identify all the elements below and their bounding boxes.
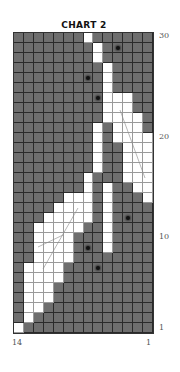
dark-stitch-cell	[74, 263, 84, 273]
light-stitch-cell	[133, 163, 143, 173]
bead-dot-icon	[86, 246, 90, 250]
dark-stitch-cell	[34, 143, 44, 153]
dark-stitch-cell	[34, 193, 44, 203]
dark-stitch-cell	[44, 203, 54, 213]
light-stitch-cell	[103, 83, 113, 93]
dark-stitch-cell	[143, 123, 153, 133]
light-stitch-cell	[103, 73, 113, 83]
dark-stitch-cell	[64, 323, 74, 333]
light-stitch-cell	[123, 123, 133, 133]
light-stitch-cell	[103, 183, 113, 193]
dark-stitch-cell	[64, 283, 74, 293]
dark-stitch-cell	[14, 213, 24, 223]
light-stitch-cell	[143, 193, 153, 203]
dark-stitch-cell	[84, 53, 94, 63]
dark-stitch-cell	[54, 113, 64, 123]
light-stitch-cell	[143, 173, 153, 183]
dark-stitch-cell	[54, 43, 64, 53]
dark-stitch-cell	[103, 133, 113, 143]
dark-stitch-cell	[84, 113, 94, 123]
dark-stitch-cell	[24, 173, 34, 183]
dark-stitch-cell	[93, 173, 103, 183]
dark-stitch-cell	[24, 223, 34, 233]
light-stitch-cell	[93, 123, 103, 133]
light-stitch-cell	[123, 103, 133, 113]
dark-stitch-cell	[14, 253, 24, 263]
light-stitch-cell	[64, 203, 74, 213]
dark-stitch-cell	[64, 103, 74, 113]
light-stitch-cell	[113, 113, 123, 123]
light-stitch-cell	[24, 293, 34, 303]
light-stitch-cell	[74, 223, 84, 233]
dark-stitch-cell	[84, 133, 94, 143]
dark-stitch-cell	[44, 173, 54, 183]
dark-stitch-cell	[84, 93, 94, 103]
dark-stitch-cell	[103, 293, 113, 303]
dark-stitch-cell	[123, 73, 133, 83]
dark-stitch-cell	[54, 313, 64, 323]
light-stitch-cell	[74, 203, 84, 213]
light-stitch-cell	[44, 273, 54, 283]
dark-stitch-cell	[113, 253, 123, 263]
dark-stitch-cell	[44, 103, 54, 113]
light-stitch-cell	[143, 153, 153, 163]
dark-stitch-cell	[133, 203, 143, 213]
dark-stitch-cell	[64, 173, 74, 183]
dark-stitch-cell	[74, 73, 84, 83]
dark-stitch-cell	[24, 233, 34, 243]
dark-stitch-cell	[84, 43, 94, 53]
dark-stitch-cell	[24, 243, 34, 253]
light-stitch-cell	[84, 33, 94, 43]
dark-stitch-cell	[24, 123, 34, 133]
dark-stitch-cell	[44, 43, 54, 53]
dark-stitch-cell	[64, 83, 74, 93]
dark-stitch-cell	[133, 243, 143, 253]
dark-stitch-cell	[93, 303, 103, 313]
dark-stitch-cell	[123, 213, 133, 223]
dark-stitch-cell	[103, 43, 113, 53]
dark-stitch-cell	[14, 63, 24, 73]
light-stitch-cell	[143, 143, 153, 153]
light-stitch-cell	[123, 163, 133, 173]
dark-stitch-cell	[84, 263, 94, 273]
row-number-label: 30	[159, 31, 169, 40]
dark-stitch-cell	[133, 193, 143, 203]
dark-stitch-cell	[34, 73, 44, 83]
dark-stitch-cell	[133, 253, 143, 263]
dark-stitch-cell	[74, 183, 84, 193]
dark-stitch-cell	[84, 253, 94, 263]
dark-stitch-cell	[64, 263, 74, 273]
light-stitch-cell	[34, 243, 44, 253]
dark-stitch-cell	[93, 73, 103, 83]
light-stitch-cell	[44, 253, 54, 263]
dark-stitch-cell	[34, 113, 44, 123]
column-number-label: 1	[146, 338, 151, 347]
dark-stitch-cell	[123, 293, 133, 303]
dark-stitch-cell	[143, 103, 153, 113]
light-stitch-cell	[74, 193, 84, 203]
dark-stitch-cell	[14, 163, 24, 173]
dark-stitch-cell	[123, 203, 133, 213]
light-stitch-cell	[93, 163, 103, 173]
dark-stitch-cell	[44, 313, 54, 323]
dark-stitch-cell	[24, 193, 34, 203]
dark-stitch-cell	[143, 293, 153, 303]
dark-stitch-cell	[64, 183, 74, 193]
dark-stitch-cell	[143, 223, 153, 233]
dark-stitch-cell	[44, 153, 54, 163]
light-stitch-cell	[113, 103, 123, 113]
dark-stitch-cell	[143, 243, 153, 253]
dark-stitch-cell	[84, 63, 94, 73]
light-stitch-cell	[54, 233, 64, 243]
light-stitch-cell	[24, 303, 34, 313]
dark-stitch-cell	[84, 283, 94, 293]
dark-stitch-cell	[34, 203, 44, 213]
dark-stitch-cell	[64, 293, 74, 303]
dark-stitch-cell	[24, 203, 34, 213]
dark-stitch-cell	[133, 293, 143, 303]
light-stitch-cell	[123, 93, 133, 103]
dark-stitch-cell	[74, 83, 84, 93]
light-stitch-cell	[113, 123, 123, 133]
dark-stitch-cell	[103, 123, 113, 133]
dark-stitch-cell	[24, 213, 34, 223]
